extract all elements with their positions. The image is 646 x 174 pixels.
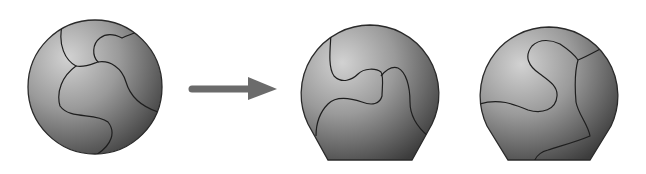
- sphere-initial-body: [28, 20, 162, 154]
- diagram-svg: [0, 0, 646, 174]
- sphere-result-2-body: [480, 27, 618, 160]
- sphere-initial: [28, 20, 162, 155]
- diagram-canvas: Three shaded spheres with boundary lines…: [0, 0, 646, 174]
- sphere-result-2: [480, 27, 618, 162]
- sphere-result-1-body: [301, 25, 439, 160]
- arrow-head-icon: [248, 77, 277, 100]
- transform-arrow: [192, 77, 277, 100]
- sphere-result-1: [301, 25, 439, 160]
